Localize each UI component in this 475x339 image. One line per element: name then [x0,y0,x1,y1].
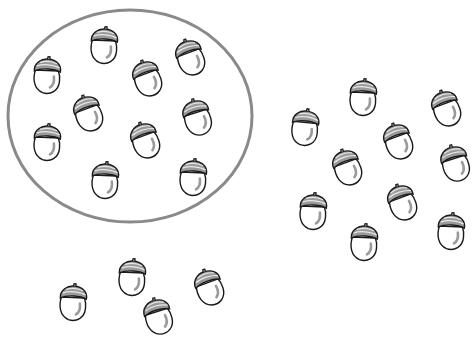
acorn-icon [28,120,66,165]
acorn-icon [345,220,383,265]
acorn-icon [28,53,66,98]
acorn-icon [294,189,332,234]
acorn-icon [344,75,382,120]
acorn-icon [174,155,212,200]
acorn-icon [54,280,92,325]
acorn-icon [285,104,325,150]
acorn-icon [432,209,470,254]
acorn-icon [113,255,151,300]
acorn-icon [85,23,123,68]
acorn-icon [86,158,124,203]
